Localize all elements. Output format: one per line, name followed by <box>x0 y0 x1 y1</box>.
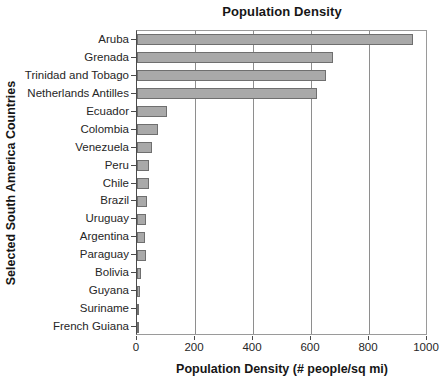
y-tick-label: French Guiana <box>53 320 129 332</box>
gridline <box>369 31 370 334</box>
x-tick-label: 600 <box>300 341 319 353</box>
bar-row <box>137 282 140 300</box>
bar-row <box>137 139 152 157</box>
bar-row <box>137 318 139 336</box>
bar <box>137 214 146 225</box>
bar <box>137 304 139 315</box>
bar <box>137 160 149 171</box>
y-tick-label: Trinidad and Tobago <box>25 69 129 81</box>
bar-row <box>137 300 139 318</box>
y-tick-label: Netherlands Antilles <box>27 87 129 99</box>
y-tick-label: Aruba <box>98 33 129 45</box>
x-tick-label: 0 <box>133 341 139 353</box>
x-tick-label: 200 <box>184 341 203 353</box>
x-axis-title: Population Density (# people/sq mi) <box>136 362 428 376</box>
bar-row <box>137 264 141 282</box>
bar <box>137 178 149 189</box>
y-tick-label: Guyana <box>89 284 129 296</box>
x-tick-mark <box>136 336 137 340</box>
bar-row <box>137 246 146 264</box>
y-tick-label: Grenada <box>84 51 129 63</box>
bar-row <box>137 175 149 193</box>
plot-area <box>136 30 427 335</box>
bar-row <box>137 67 326 85</box>
bar <box>137 232 145 243</box>
x-tick-mark <box>252 336 253 340</box>
y-axis-tick-labels: ArubaGrenadaTrinidad and TobagoNetherlan… <box>0 30 133 335</box>
y-tick-label: Suriname <box>80 302 129 314</box>
x-tick-label: 800 <box>358 341 377 353</box>
bar <box>137 70 326 81</box>
bar-row <box>137 210 146 228</box>
bar-row <box>137 157 149 175</box>
y-tick-label: Paraguay <box>80 248 129 260</box>
y-tick-label: Peru <box>105 159 129 171</box>
y-tick-label: Bolivia <box>95 266 129 278</box>
y-tick-label: Venezuela <box>75 141 129 153</box>
bar-row <box>137 121 158 139</box>
bar <box>137 286 140 297</box>
x-axis-tick-labels: 02004006008001000 <box>0 336 448 358</box>
bar <box>137 34 413 45</box>
bar-row <box>137 49 333 67</box>
x-tick-mark <box>368 336 369 340</box>
bar <box>137 322 139 333</box>
bar <box>137 196 147 207</box>
x-tick-mark <box>194 336 195 340</box>
bar <box>137 106 167 117</box>
y-tick-label: Uruguay <box>86 212 129 224</box>
bar-row <box>137 31 413 49</box>
bar <box>137 142 152 153</box>
y-tick-label: Argentina <box>80 230 129 242</box>
x-tick-label: 1000 <box>413 341 439 353</box>
bar <box>137 250 146 261</box>
y-tick-label: Ecuador <box>86 105 129 117</box>
bar-row <box>137 85 317 103</box>
x-tick-mark <box>426 336 427 340</box>
y-tick-label: Chile <box>103 177 129 189</box>
x-tick-mark <box>310 336 311 340</box>
bar <box>137 52 333 63</box>
y-tick-label: Colombia <box>80 123 129 135</box>
bar-row <box>137 103 167 121</box>
bar <box>137 88 317 99</box>
x-tick-label: 400 <box>242 341 261 353</box>
bar <box>137 268 141 279</box>
chart-title: Population Density <box>136 4 428 19</box>
y-tick-label: Brazil <box>100 194 129 206</box>
bar-row <box>137 192 147 210</box>
bar-row <box>137 228 145 246</box>
bar <box>137 124 158 135</box>
population-density-bar-chart: Population Density Selected South Americ… <box>0 0 448 385</box>
